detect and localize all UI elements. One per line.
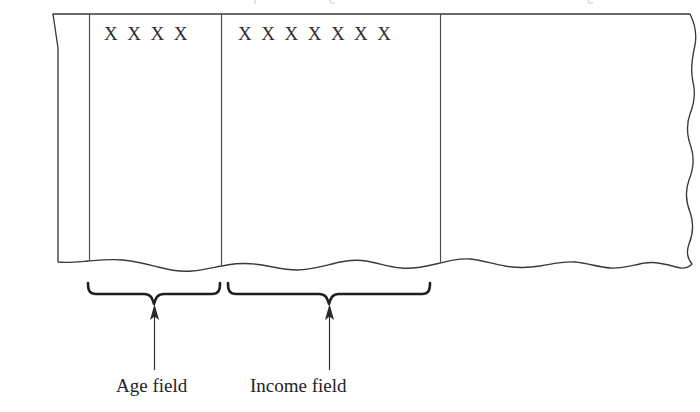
income-field-arrow (325, 304, 334, 370)
punched-card-outline (53, 14, 696, 271)
income-field-brace (228, 283, 430, 304)
age-field-label: Age field (116, 376, 187, 395)
punched-card-figure: X X X X X X X X X X X Age field Income f… (0, 0, 700, 412)
age-field-punch-marks: X X X X (104, 24, 187, 43)
age-field-brace (88, 283, 220, 304)
income-field-label: Income field (250, 376, 347, 395)
cropped-caption-artifact (255, 0, 593, 4)
age-field-arrow (150, 304, 159, 370)
income-field-punch-marks: X X X X X X X (238, 24, 391, 43)
figure-canvas (0, 0, 700, 412)
